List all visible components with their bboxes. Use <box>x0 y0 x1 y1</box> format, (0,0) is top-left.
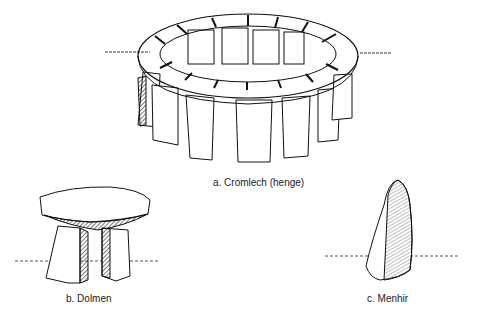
cromlech-drawing <box>105 14 392 162</box>
menhir-drawing <box>325 180 460 280</box>
label-cromlech: a. Cromlech (henge) <box>213 177 304 188</box>
megalith-illustrations <box>0 0 481 323</box>
label-dolmen: b. Dolmen <box>66 293 112 304</box>
dolmen-drawing <box>15 187 160 283</box>
label-menhir: c. Menhir <box>367 293 408 304</box>
